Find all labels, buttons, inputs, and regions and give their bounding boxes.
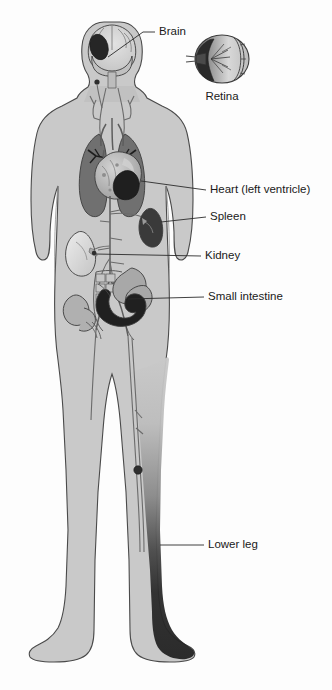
label-retina: Retina <box>205 90 239 102</box>
label-group: Brain Retina Heart (left ventricle) Sple… <box>159 25 311 550</box>
label-small-intestine: Small intestine <box>208 290 283 302</box>
label-kidney: Kidney <box>205 249 240 261</box>
label-spleen: Spleen <box>210 210 246 222</box>
eye-diagram <box>186 35 249 83</box>
label-heart-left-ventricle: Heart (left ventricle) <box>210 183 311 195</box>
leg-thrombus-marker <box>134 466 142 474</box>
label-lower-leg: Lower leg <box>208 538 258 550</box>
anatomy-diagram-canvas: Brain Retina Heart (left ventricle) Sple… <box>0 0 332 690</box>
label-brain: Brain <box>159 25 186 37</box>
anatomy-figure: Brain Retina Heart (left ventricle) Sple… <box>0 0 332 690</box>
